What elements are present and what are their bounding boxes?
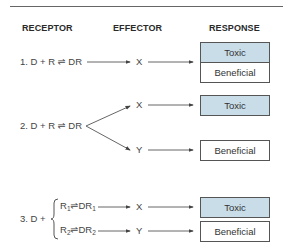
row3-prefix: 3. D +	[20, 213, 46, 224]
row2-number: 2.	[20, 120, 28, 131]
row3-response-toxic: Toxic	[200, 197, 270, 218]
row3-effector-y: Y	[136, 225, 142, 236]
row3-number: 3.	[20, 213, 28, 224]
row1-response-beneficial: Beneficial	[200, 62, 270, 83]
row1-effector-x: X	[136, 56, 142, 67]
row1-equation: D + R ⇌ DR	[31, 56, 83, 67]
row3-d-plus: D +	[31, 213, 46, 224]
row3-response-beneficial: Beneficial	[200, 221, 270, 242]
row2-effector-y: Y	[136, 144, 142, 155]
r1-symbol: R	[60, 200, 67, 211]
row2-equation: D + R ⇌ DR	[31, 120, 83, 131]
row2-response-beneficial: Beneficial	[200, 140, 270, 161]
dr1-subscript: 1	[92, 205, 96, 212]
row3-reaction-2: R2⇌DR2	[60, 224, 96, 236]
row3-reaction-1: R1⇌DR1	[60, 200, 96, 212]
r2-symbol: R	[60, 224, 67, 235]
dr2-subscript: 2	[92, 229, 96, 236]
row1-number: 1.	[20, 56, 28, 67]
row2-response-toxic: Toxic	[200, 95, 270, 116]
row1-reaction: 1. D + R ⇌ DR	[20, 56, 82, 67]
row2-reaction: 2. D + R ⇌ DR	[20, 120, 82, 131]
row2-effector-x: X	[136, 99, 142, 110]
dr2-symbol: DR	[78, 224, 92, 235]
row1-response-toxic: Toxic	[200, 42, 270, 63]
dr1-symbol: DR	[78, 200, 92, 211]
row3-effector-x: X	[136, 201, 142, 212]
